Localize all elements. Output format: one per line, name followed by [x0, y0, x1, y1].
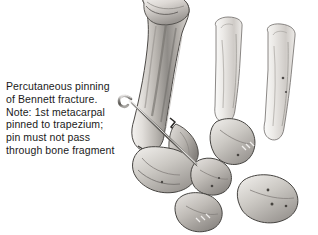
bennett-fracture-figure: Percutaneous pinning of Bennett fracture…: [0, 0, 318, 235]
figure-caption: Percutaneous pinning of Bennett fracture…: [6, 80, 132, 157]
capitate: [210, 119, 255, 165]
